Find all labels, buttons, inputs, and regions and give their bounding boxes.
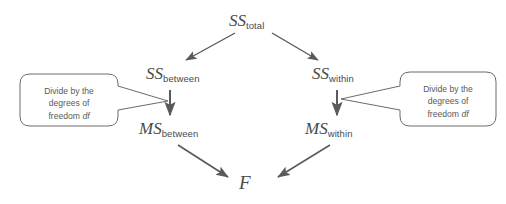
node-ms-within-subscript: within xyxy=(328,128,353,139)
node-ms-between-subscript: between xyxy=(162,128,199,139)
node-ms-between-base: MS xyxy=(139,119,162,138)
callout-left-df-symbol: df xyxy=(82,111,89,121)
callout-left-line3-prefix: freedom xyxy=(48,111,82,121)
node-ss-within-subscript: within xyxy=(329,73,354,84)
anova-flow-diagram: SStotal SSbetween SSwithin MSbetween MSw… xyxy=(0,0,506,204)
node-ss-total-subscript: total xyxy=(246,20,264,31)
node-ss-between: SSbetween xyxy=(146,65,200,83)
callout-left-line1: Divide by the xyxy=(24,85,114,97)
node-ss-within: SSwithin xyxy=(312,65,354,83)
callout-left-text: Divide by the degrees of freedom df xyxy=(24,85,114,122)
node-ms-between: MSbetween xyxy=(139,120,198,138)
callout-right-line1: Divide by the xyxy=(403,83,493,95)
node-ss-between-base: SS xyxy=(146,64,163,83)
edge-sstotal-to-ssbetween xyxy=(186,33,235,60)
callout-right-line3: freedom df xyxy=(403,108,493,120)
callout-right-df-symbol: df xyxy=(461,109,468,119)
callout-right-line3-prefix: freedom xyxy=(427,109,461,119)
node-ms-within-base: MS xyxy=(305,119,328,138)
node-f-statistic: F xyxy=(239,173,251,192)
callout-right-text: Divide by the degrees of freedom df xyxy=(403,83,493,120)
node-ss-total: SStotal xyxy=(229,12,264,30)
callout-left-line2: degrees of xyxy=(24,97,114,109)
node-ss-total-base: SS xyxy=(229,11,246,30)
node-ss-between-subscript: between xyxy=(163,73,200,84)
callout-left-line3: freedom df xyxy=(24,110,114,122)
callout-right-line2: degrees of xyxy=(403,95,493,107)
edge-sstotal-to-sswithin xyxy=(272,33,318,60)
node-f-statistic-base: F xyxy=(239,172,251,193)
edge-msbetween-to-f xyxy=(178,145,228,177)
node-ss-within-base: SS xyxy=(312,64,329,83)
edge-mswithin-to-f xyxy=(278,145,330,177)
node-ms-within: MSwithin xyxy=(305,120,353,138)
